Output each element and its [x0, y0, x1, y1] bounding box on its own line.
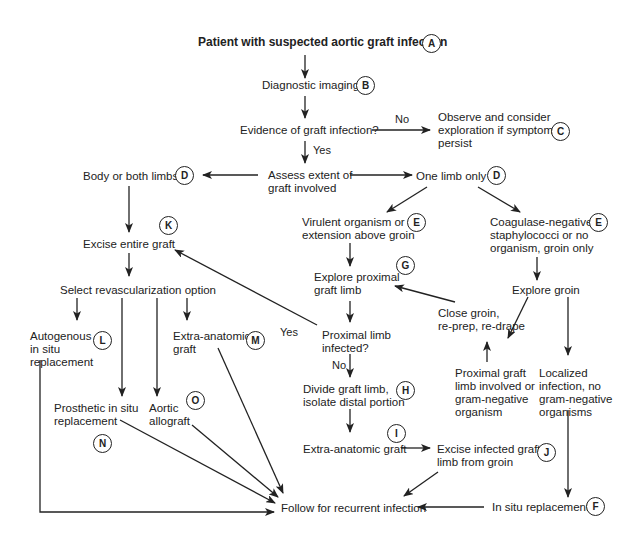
badge-i: I: [387, 424, 406, 443]
badge-o: O: [186, 391, 205, 410]
edge-m-follow: [218, 348, 283, 493]
edge-label-no-evidence: No: [395, 113, 409, 125]
node-i-text: Extra-anatomic graft: [303, 443, 407, 456]
badge-c: C: [551, 122, 570, 141]
node-j-text: Excise infected graft limb from groin: [437, 443, 541, 469]
node-e-right-text: Coagulase-negative staphylococci or no o…: [490, 216, 594, 255]
node-k-text: Excise entire graft: [83, 238, 175, 251]
node-l-text: Autogenous in situ replacement: [30, 330, 93, 369]
badge-d-left: D: [175, 166, 194, 185]
node-c-text: Observe and consider exploration if symp…: [438, 111, 559, 150]
edge-label-yes-proximal: Yes: [280, 326, 298, 338]
badge-f: F: [586, 497, 605, 516]
badge-n: N: [93, 434, 112, 453]
node-a-text: Patient with suspected aortic graft infe…: [198, 36, 447, 49]
edge-dright-eleft: [387, 187, 427, 212]
node-select-text: Select revascularization option: [60, 284, 216, 297]
node-follow-text: Follow for recurrent infection: [281, 502, 426, 515]
node-f-text: In situ replacement: [492, 501, 589, 514]
badge-h: H: [396, 381, 415, 400]
node-evidence-text: Evidence of graft infection?: [240, 124, 379, 137]
badge-b: B: [356, 76, 375, 95]
edge-o-follow: [192, 425, 278, 497]
edge-j-follow: [404, 472, 438, 496]
edge-n-follow: [120, 420, 275, 503]
badge-g: G: [396, 256, 415, 275]
badge-l: L: [93, 331, 112, 350]
badge-m: M: [246, 331, 265, 350]
node-d-right-text: One limb only: [416, 170, 486, 183]
node-b-text: Diagnostic imaging: [262, 79, 359, 92]
node-m-text: Extra-anatomic graft: [173, 330, 250, 356]
node-g-text: Explore proximal graft limb: [314, 271, 400, 297]
node-proximal-involved-text: Proximal graft limb involved or gram-neg…: [455, 367, 535, 419]
node-assess-text: Assess extent of graft involved: [268, 169, 352, 195]
node-explore-groin-text: Explore groin: [512, 284, 580, 297]
badge-k: K: [159, 216, 178, 235]
node-localized-text: Localized infection, no gram-negative or…: [539, 367, 613, 419]
flowchart: Patient with suspected aortic graft infe…: [0, 0, 644, 549]
node-e-left-text: Virulent organism or extension above gro…: [302, 216, 415, 242]
node-o-text: Aortic allograft: [149, 402, 190, 428]
badge-e-left: E: [407, 213, 426, 232]
badge-d-right: D: [487, 166, 506, 185]
node-close-groin-text: Close groin, re-prep, re-drape: [438, 307, 525, 333]
edge-label-no-proximal: No: [332, 359, 346, 371]
edge-dright-eright: [478, 187, 520, 212]
node-d-left-text: Body or both limbs: [83, 170, 178, 183]
node-n-text: Prosthetic in situ replacement: [54, 402, 138, 428]
node-h-text: Divide graft limb, isolate distal portio…: [303, 383, 405, 409]
badge-a: A: [422, 34, 441, 53]
node-proximal-infected-text: Proximal limb infected?: [322, 329, 391, 355]
badge-e-right: E: [589, 213, 608, 232]
edge-close-g: [395, 286, 455, 302]
edge-label-yes-evidence: Yes: [313, 144, 331, 156]
badge-j: J: [537, 443, 556, 462]
